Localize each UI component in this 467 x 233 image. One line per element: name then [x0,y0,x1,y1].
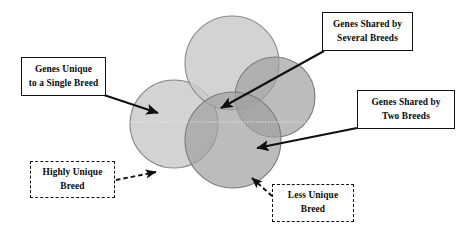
callout-genes-shared-by-several-breeds: Genes Shared by Several Breeds [322,12,413,51]
callout-line-1: Less Unique [288,189,338,203]
arrow-less-unique-breed [252,178,272,196]
less-unique-breed-circle [185,92,281,188]
callout-line-2: Breed [60,180,84,194]
callout-line-2: Two Breeds [382,110,430,124]
venn-diagram-figure: Genes Unique to a Single Breed Genes Sha… [0,0,467,233]
arrow-highly-unique-breed [116,172,156,180]
callout-line-1: Genes Shared by [371,96,440,110]
callout-genes-shared-by-two-breeds: Genes Shared by Two Breeds [357,90,455,129]
callout-less-unique-breed: Less Unique Breed [272,184,354,222]
callout-genes-unique-to-single-breed: Genes Unique to a Single Breed [21,57,106,96]
callout-line-1: Genes Unique [35,63,92,77]
callout-line-1: Highly Unique [43,166,103,180]
callout-highly-unique-breed: Highly Unique Breed [30,161,115,198]
callout-line-2: to a Single Breed [29,77,99,91]
callout-line-1: Genes Shared by [333,18,402,32]
venn-circles-group [130,16,315,188]
callout-line-2: Breed [301,203,325,217]
callout-line-2: Several Breeds [337,32,398,46]
